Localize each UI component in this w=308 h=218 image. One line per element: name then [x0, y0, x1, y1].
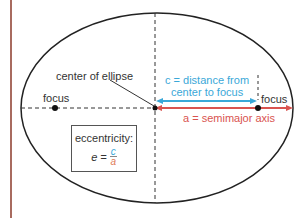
left-focus-label: focus: [43, 92, 69, 105]
eccentricity-box: eccentricity: e = c a: [71, 125, 137, 172]
eccentricity-fraction: c a: [110, 147, 117, 166]
fraction-denominator: a: [111, 157, 117, 166]
eccentricity-title: eccentricity:: [72, 132, 136, 144]
center-leader-line: [110, 80, 154, 106]
c-label-line2: center to focus: [171, 86, 243, 99]
left-focus-dot: [52, 105, 58, 111]
right-focus-label: focus: [261, 93, 287, 106]
center-label: center of ellipse: [56, 70, 133, 83]
a-label: a = semimajor axis: [183, 112, 275, 125]
ellipse-diagram: [0, 0, 308, 218]
center-dot: [153, 106, 158, 111]
c-arrowhead-right-icon: [250, 98, 257, 104]
eccentricity-lhs: e =: [91, 151, 107, 163]
c-arrowhead-left-icon: [156, 98, 163, 104]
eccentricity-equation: e = c a: [91, 147, 117, 166]
